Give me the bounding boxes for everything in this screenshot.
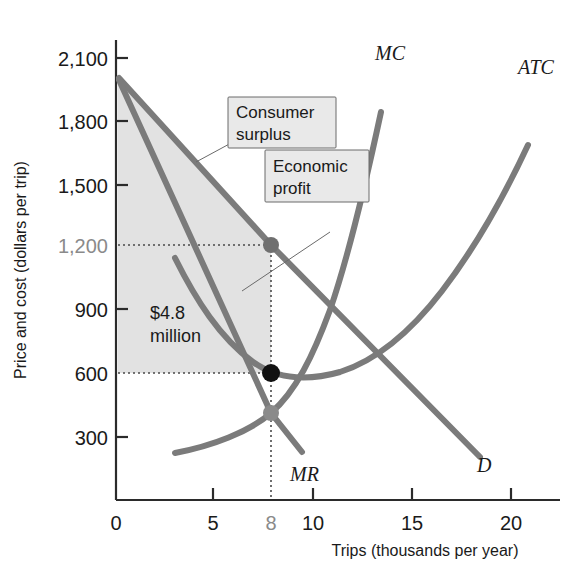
- y-tick-label-1500: 1,500: [58, 175, 108, 197]
- consumer-surplus-callout: Consumer surplus: [228, 97, 336, 148]
- x-tick-label-0: 0: [110, 512, 121, 534]
- x-tick-label-8: 8: [265, 512, 276, 534]
- y-axis-title: Price and cost (dollars per trip): [12, 161, 29, 379]
- mc-curve-label: MC: [374, 42, 406, 64]
- monopoly-diagram: Consumer surplus Economic profit $4.8 mi…: [0, 0, 581, 567]
- y-tick-label-1200: 1,200: [58, 235, 108, 257]
- atc-point-marker: [262, 364, 280, 382]
- mr-mc-point-marker: [263, 405, 279, 421]
- x-tick-label-5: 5: [207, 512, 218, 534]
- profit-value-line1: $4.8: [150, 303, 185, 323]
- x-axis-title: Trips (thousands per year): [331, 542, 518, 559]
- economic-profit-callout-line1: Economic: [273, 157, 348, 176]
- x-tick-label-15: 15: [401, 512, 423, 534]
- x-tick-label-10: 10: [302, 512, 324, 534]
- x-tick-label-20: 20: [500, 512, 522, 534]
- price-point-marker: [263, 237, 279, 253]
- y-tick-label-900: 900: [75, 299, 108, 321]
- figure-container: Consumer surplus Economic profit $4.8 mi…: [0, 0, 581, 567]
- atc-curve-label: ATC: [516, 56, 555, 78]
- y-tick-label-300: 300: [75, 427, 108, 449]
- d-curve-label: D: [476, 454, 492, 476]
- consumer-surplus-callout-line1: Consumer: [236, 103, 315, 122]
- economic-profit-callout-line2: profit: [273, 179, 311, 198]
- consumer-surplus-callout-line2: surplus: [236, 125, 291, 144]
- economic-profit-region: [118, 245, 271, 373]
- x-axis-ticks: [213, 488, 511, 500]
- y-tick-label-1800: 1,800: [58, 111, 108, 133]
- mr-curve-label: MR: [289, 463, 319, 485]
- y-tick-label-600: 600: [75, 363, 108, 385]
- profit-value-line2: million: [150, 326, 201, 346]
- economic-profit-callout: Economic profit: [265, 150, 369, 202]
- y-tick-label-2100: 2,100: [58, 48, 108, 70]
